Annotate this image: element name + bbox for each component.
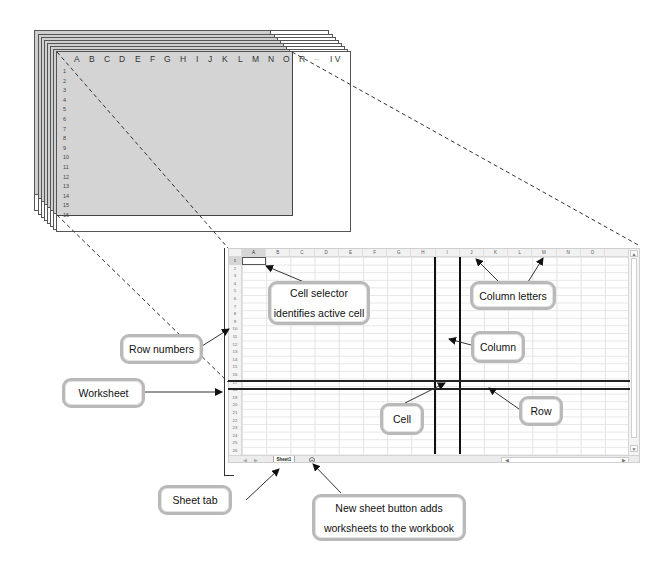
column-header[interactable]: M	[532, 249, 556, 257]
sheet-tab-sheet1[interactable]: Sheet1	[273, 456, 295, 463]
row-header[interactable]: 9	[229, 318, 241, 326]
row-header[interactable]: 4	[229, 280, 241, 288]
stack-row-number: 13	[63, 182, 69, 192]
callout-text: Row numbers	[129, 339, 194, 359]
column-i-left-edge	[434, 257, 436, 454]
stack-row-number: 9	[63, 144, 69, 154]
row-header[interactable]: 7	[229, 303, 241, 311]
stack-row-number: 2	[63, 77, 69, 87]
column-header[interactable]: E	[339, 249, 363, 257]
callout-text: Row	[530, 401, 551, 421]
vertical-scrollbar[interactable]: ▲ ▼	[628, 249, 639, 455]
scroll-down-button[interactable]: ▼	[630, 445, 638, 452]
column-header-row: A B C D E F G H I J K L M N O	[229, 249, 629, 257]
row-header[interactable]: 14	[229, 356, 241, 364]
stack-col-letter: G	[164, 54, 171, 64]
callout-text: Cell	[393, 409, 411, 429]
column-header[interactable]: A	[242, 249, 266, 257]
column-header-partial[interactable]	[605, 249, 629, 257]
callout-cell: Cell	[380, 403, 424, 435]
row-header[interactable]: 10	[229, 325, 241, 333]
new-sheet-button[interactable]: +	[309, 457, 315, 463]
stack-row-number: 14	[63, 192, 69, 202]
stack-col-letter: N	[268, 54, 274, 64]
stack-col-letter: K	[222, 54, 228, 64]
stack-col-letter: I	[196, 54, 198, 64]
row-number-column: 1 2 3 4 5 6 7 8 9 10 11 12 13 14 15 16 1…	[229, 257, 242, 455]
stack-col-letter: A	[74, 54, 80, 64]
row-header[interactable]: 11	[229, 333, 241, 341]
worksheet-bracket-bottom	[224, 475, 234, 476]
stack-row-number: 3	[63, 86, 69, 96]
horizontal-scrollbar[interactable]: ◀ ▶	[501, 457, 629, 463]
stack-col-letter: M	[252, 54, 259, 64]
scroll-right-button[interactable]: ▶	[620, 458, 627, 463]
row-header[interactable]: 16	[229, 371, 241, 379]
row-17-bottom-edge	[228, 388, 630, 390]
row-header[interactable]: 19	[229, 394, 241, 402]
column-header[interactable]: K	[484, 249, 508, 257]
stack-col-letter: D	[119, 54, 125, 64]
callout-new-sheet-button: New sheet button adds worksheets to the …	[312, 494, 466, 541]
column-header[interactable]: B	[266, 249, 290, 257]
stack-row-number: 11	[63, 163, 69, 173]
stack-row-number: 4	[63, 96, 69, 106]
stack-row-number: 8	[63, 134, 69, 144]
callout-column: Column	[471, 331, 525, 363]
column-header[interactable]: F	[363, 249, 387, 257]
row-header[interactable]: 5	[229, 287, 241, 295]
column-header[interactable]: H	[411, 249, 435, 257]
column-header[interactable]: L	[508, 249, 532, 257]
scroll-up-button[interactable]: ▲	[630, 250, 638, 257]
row-header[interactable]: 21	[229, 409, 241, 417]
column-i-right-edge	[459, 257, 461, 454]
row-header[interactable]: 12	[229, 341, 241, 349]
callout-column-letters: Column letters	[470, 281, 556, 310]
row-header[interactable]: 8	[229, 310, 241, 318]
vertical-scroll-thumb[interactable]	[631, 258, 637, 438]
stack-column-letters: A B C D E F G H I J K L M N O R ... I V	[57, 54, 352, 64]
stack-row-number: 12	[63, 173, 69, 183]
row-header[interactable]: 23	[229, 424, 241, 432]
tab-prev-icon[interactable]: ◀	[243, 456, 247, 463]
callout-text: New sheet button adds	[335, 498, 442, 518]
stack-col-letter: F	[150, 54, 155, 64]
row-header[interactable]: 6	[229, 295, 241, 303]
row-header[interactable]: 24	[229, 432, 241, 440]
row-header[interactable]: 15	[229, 363, 241, 371]
column-header[interactable]: N	[557, 249, 581, 257]
row-header[interactable]: 20	[229, 401, 241, 409]
row-header[interactable]: 1	[229, 257, 241, 265]
stack-row-number: 7	[63, 125, 69, 135]
row-header[interactable]: 3	[229, 272, 241, 280]
cell-selector-a1[interactable]	[242, 257, 266, 265]
stack-row-number: 1	[63, 67, 69, 77]
column-header[interactable]: I	[436, 249, 460, 257]
tab-next-icon[interactable]: ▶	[254, 456, 258, 463]
stack-col-letter: J	[208, 54, 212, 64]
used-area	[57, 52, 293, 216]
sheet-tab-bar: ◀ ▶ Sheet1 + ◀ ▶	[229, 455, 640, 463]
stack-row-number: 5	[63, 105, 69, 115]
stack-row-numbers: 1 2 3 4 5 6 7 8 9 10 11 12 13 14 15 16	[63, 67, 69, 221]
callout-text: Column letters	[479, 286, 547, 306]
row-header[interactable]: 22	[229, 417, 241, 425]
column-header[interactable]: C	[290, 249, 314, 257]
callout-row-numbers: Row numbers	[120, 334, 203, 364]
column-header[interactable]: O	[581, 249, 605, 257]
callout-cell-selector: Cell selector identifies active cell	[268, 281, 370, 325]
column-header[interactable]: J	[460, 249, 484, 257]
scroll-left-button[interactable]: ◀	[503, 458, 510, 463]
row-header[interactable]: 25	[229, 439, 241, 447]
row-header[interactable]: 13	[229, 348, 241, 356]
worksheet-bracket	[224, 248, 225, 476]
column-header[interactable]: D	[315, 249, 339, 257]
select-all-corner[interactable]	[229, 249, 242, 257]
row-header[interactable]: 26	[229, 447, 241, 455]
row-header[interactable]: 2	[229, 265, 241, 273]
stack-col-letter: C	[104, 54, 110, 64]
stack-col-letter: I V	[330, 54, 340, 64]
front-sheet: A B C D E F G H I J K L M N O R ... I V …	[56, 51, 351, 232]
stack-row-number: 16	[63, 211, 69, 221]
column-header[interactable]: G	[387, 249, 411, 257]
